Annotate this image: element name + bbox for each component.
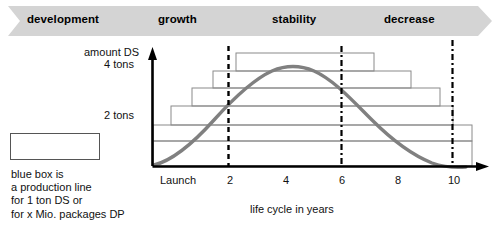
y-axis-tick-2-tons: 2 tons <box>104 109 134 121</box>
demand-curve <box>154 67 466 168</box>
x-axis-tick-2: 2 <box>227 174 233 186</box>
x-axis-tick-4: 4 <box>283 174 289 186</box>
legend-swatch-box <box>10 133 100 160</box>
y-axis-title: amount DS <box>84 46 139 58</box>
life-cycle-capacity-diagram: development growth stability decrease <box>0 0 497 233</box>
x-axis-tick-10: 10 <box>448 174 460 186</box>
x-axis-tick-8: 8 <box>395 174 401 186</box>
x-axis-tick-launch: Launch <box>160 174 196 186</box>
y-axis-tick-4-tons: 4 tons <box>104 58 134 70</box>
x-axis-tick-6: 6 <box>339 174 345 186</box>
capacity-box-5 <box>213 71 411 88</box>
legend-caption: blue box is a production line for 1 ton … <box>11 168 125 221</box>
x-axis-arrowhead <box>476 162 489 171</box>
y-axis-arrowhead <box>148 47 157 60</box>
x-axis-title: life cycle in years <box>250 203 334 215</box>
capacity-box-1 <box>153 141 472 166</box>
